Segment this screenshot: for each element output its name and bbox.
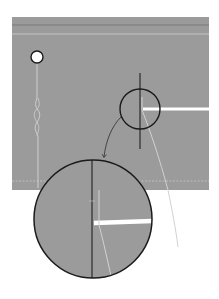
magnified-bright-bar [94,221,155,223]
marker-circle-icon [31,51,43,63]
magnifier-diagram [0,0,219,299]
